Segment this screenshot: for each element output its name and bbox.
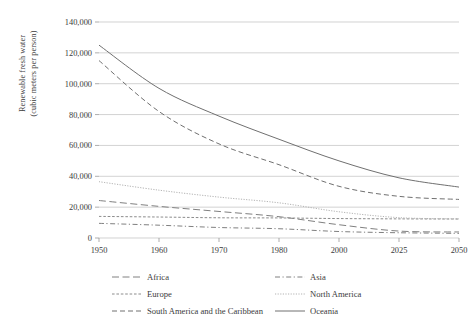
x-axis-ticks-group: 1950196019701980200020252050 [91, 238, 468, 255]
y-tick-label: 20,000 [69, 203, 92, 212]
x-tick-label: 2025 [391, 246, 408, 255]
line-chart-svg: 020,00040,00060,00080,000100,000120,0001… [0, 0, 471, 331]
x-tick-label: 1950 [91, 246, 108, 255]
x-tick-label: 1960 [151, 246, 168, 255]
x-tick-label: 1970 [211, 246, 228, 255]
y-tick-label: 40,000 [69, 172, 92, 181]
series-line [99, 223, 459, 233]
legend-label: Asia [310, 272, 326, 282]
y-tick-label: 100,000 [65, 80, 92, 89]
legend-label: South America and the Caribbean [147, 306, 264, 316]
legend-group: AfricaAsiaEuropeNorth AmericaSouth Ameri… [112, 272, 361, 316]
legend-label: North America [310, 289, 361, 299]
y-tick-label: 120,000 [65, 49, 92, 58]
y-tick-label: 80,000 [69, 111, 92, 120]
x-tick-label: 1980 [271, 246, 288, 255]
legend-label: Oceania [310, 306, 338, 316]
data-series-group [99, 45, 459, 233]
series-line [99, 45, 459, 187]
y-tick-label: 0 [88, 234, 92, 243]
y-tick-label: 60,000 [69, 141, 92, 150]
x-tick-label: 2050 [451, 246, 468, 255]
x-tick-label: 2000 [331, 246, 348, 255]
chart-figure: Renewable fresh water (cubic meters per … [0, 0, 471, 331]
series-line [99, 201, 459, 232]
legend-label: Africa [147, 272, 169, 282]
y-axis-ticks-group: 020,00040,00060,00080,000100,000120,0001… [65, 18, 99, 243]
legend-label: Europe [147, 289, 172, 299]
y-tick-label: 140,000 [65, 18, 92, 27]
series-line [99, 182, 459, 219]
